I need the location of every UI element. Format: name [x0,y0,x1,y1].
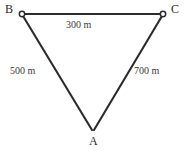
vertex-label-a: A [89,135,98,147]
edge-label-bc: 300 m [66,19,91,30]
vertex-label-c: C [171,3,179,15]
vertex-marker-c [160,11,165,16]
edge-label-ab: 500 m [10,65,35,76]
triangle-diagram: B C A 300 m 500 m 700 m [0,0,190,151]
edge-label-ac: 700 m [134,65,159,76]
vertex-label-b: B [5,3,13,15]
vertex-marker-b [19,11,24,16]
